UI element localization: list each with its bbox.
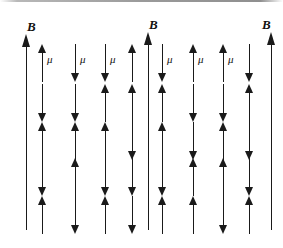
- arrow-shaft: [249, 158, 250, 191]
- mu-label: μ: [47, 54, 53, 65]
- moment-arrow-down: [245, 44, 254, 82]
- moment-arrow-down: [219, 196, 228, 234]
- arrow-shaft: [162, 89, 163, 122]
- arrow-shaft: [193, 122, 194, 155]
- arrow-shaft: [162, 44, 163, 77]
- moment-arrow-up: [158, 84, 167, 122]
- moment-arrow-up: [101, 84, 110, 122]
- moment-arrow-down: [245, 158, 254, 196]
- arrow-shaft: [75, 196, 76, 229]
- moment-arrow-up: [71, 158, 80, 196]
- moment-arrow-down: [245, 122, 254, 160]
- mu-label: μ: [167, 54, 173, 65]
- arrow-shaft: [42, 201, 43, 234]
- moment-arrow-down: [219, 84, 228, 122]
- moment-arrow-up: [158, 196, 167, 234]
- moment-arrow-up: [219, 158, 228, 196]
- field-label-right: B: [262, 18, 271, 31]
- arrow-shaft: [75, 163, 76, 196]
- moment-arrow-down: [128, 122, 137, 160]
- moment-arrow-up: [38, 196, 47, 234]
- arrow-shaft: [223, 196, 224, 229]
- arrow-shaft: [249, 44, 250, 77]
- moment-arrow-up: [128, 44, 137, 82]
- moment-arrow-up: μ: [38, 44, 47, 82]
- arrow-shaft: [105, 158, 106, 191]
- moment-arrow-up: μ: [189, 44, 198, 82]
- moment-arrow-up: μ: [219, 44, 228, 82]
- arrow-shaft: [105, 89, 106, 122]
- moment-arrow-down: [101, 158, 110, 196]
- arrow-shaft: [75, 127, 76, 160]
- mu-label: μ: [198, 54, 204, 65]
- field-arrow-right: [265, 32, 279, 230]
- moment-arrow-down: [71, 196, 80, 234]
- moment-arrow-up: [245, 84, 254, 122]
- moment-arrow-down: [71, 84, 80, 122]
- arrow-shaft: [249, 89, 250, 122]
- moment-arrow-down: [189, 122, 198, 160]
- moment-arrow-up: [101, 122, 110, 160]
- arrow-shaft: [162, 127, 163, 160]
- moment-arrow-down: [189, 84, 198, 122]
- arrow-shaft: [42, 49, 43, 82]
- arrow-shaft: [105, 201, 106, 234]
- moment-arrow-up: [38, 122, 47, 160]
- moment-arrow-down: [158, 158, 167, 196]
- field-label-middle: B: [149, 18, 158, 31]
- arrow-shaft: [26, 45, 27, 230]
- moment-arrow-up: [189, 196, 198, 234]
- arrow-shaft: [162, 201, 163, 234]
- arrow-shaft: [105, 44, 106, 77]
- arrow-shaft: [223, 84, 224, 117]
- moment-arrow-down: [128, 196, 137, 234]
- arrow-shaft: [193, 201, 194, 234]
- arrow-shaft: [42, 158, 43, 191]
- moment-arrow-up: [189, 158, 198, 196]
- moment-arrow-up: [158, 122, 167, 160]
- arrow-shaft: [193, 49, 194, 82]
- arrow-shaft: [193, 84, 194, 117]
- top-divider-rule: [0, 0, 283, 2]
- moment-arrow-up: [71, 122, 80, 160]
- arrow-shaft: [249, 122, 250, 155]
- moment-arrow-up: [101, 196, 110, 234]
- field-arrow-left: [20, 34, 34, 230]
- moment-arrow-down: [128, 158, 137, 196]
- arrow-shaft: [223, 49, 224, 82]
- dipole-field-figure: BBB μμμμμμ: [0, 0, 283, 248]
- moment-arrow-down: [38, 84, 47, 122]
- arrow-shaft: [223, 127, 224, 160]
- arrow-shaft: [132, 196, 133, 229]
- mu-label: μ: [228, 54, 234, 65]
- arrow-shaft: [42, 127, 43, 160]
- field-label-left: B: [27, 20, 36, 33]
- moment-arrow-down: μ: [158, 44, 167, 82]
- arrow-shaft: [75, 84, 76, 117]
- arrow-shaft: [105, 127, 106, 160]
- arrow-shaft: [75, 44, 76, 77]
- arrow-shaft: [249, 201, 250, 234]
- arrow-shaft: [193, 163, 194, 196]
- arrow-shaft: [148, 43, 149, 230]
- moment-arrow-down: μ: [101, 44, 110, 82]
- mu-label: μ: [80, 54, 86, 65]
- field-arrow-middle: [142, 32, 156, 230]
- arrow-shaft: [132, 158, 133, 191]
- arrow-shaft: [162, 158, 163, 191]
- arrow-shaft: [132, 122, 133, 155]
- arrow-shaft: [42, 84, 43, 117]
- moment-arrow-up: [245, 196, 254, 234]
- arrow-shaft: [132, 89, 133, 122]
- moment-arrow-up: [128, 84, 137, 122]
- moment-arrow-down: [38, 158, 47, 196]
- arrow-shaft: [223, 163, 224, 196]
- moment-arrow-down: μ: [71, 44, 80, 82]
- arrow-shaft: [132, 49, 133, 82]
- arrow-shaft: [271, 43, 272, 230]
- moment-arrow-up: [219, 122, 228, 160]
- mu-label: μ: [110, 54, 116, 65]
